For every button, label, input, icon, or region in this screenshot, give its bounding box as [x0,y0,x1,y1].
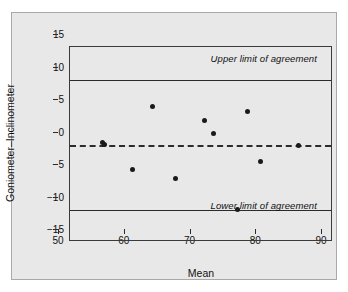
y-tick-mark [53,99,58,100]
x-tick-mark [124,229,125,234]
data-point [130,167,135,172]
upper-limit-of-agreement-line [70,80,331,81]
x-tick-mark [321,229,322,234]
data-point [245,109,250,114]
x-tick-label: 50 [52,235,63,246]
y-axis-label: Goniometer–Inclinometer [4,84,16,202]
y-tick-label: 5 [58,94,64,105]
bland-altman-figure: Goniometer–Inclinometer Mean 151050−5−10… [0,0,348,292]
mean-difference-line [70,145,331,147]
lower-limit-of-agreement-label: Lower limit of agreement [211,200,317,211]
y-tick-mark [53,132,58,133]
x-tick-mark [190,229,191,234]
data-point [173,176,178,181]
data-point [150,104,155,109]
x-tick-mark [58,229,59,234]
plot-area [69,46,332,241]
data-point [202,118,207,123]
y-tick-mark [53,197,58,198]
x-tick-mark [255,229,256,234]
y-tick-label: 0 [58,126,64,137]
upper-limit-of-agreement-label: Upper limit of agreement [211,53,317,64]
y-tick-mark [53,34,58,35]
data-point [211,131,216,136]
figure-card: Goniometer–Inclinometer Mean 151050−5−10… [11,12,337,280]
y-tick-mark [53,164,58,165]
data-point [258,159,263,164]
y-tick-mark [53,67,58,68]
x-axis-label: Mean [188,267,214,279]
data-point [296,143,301,148]
